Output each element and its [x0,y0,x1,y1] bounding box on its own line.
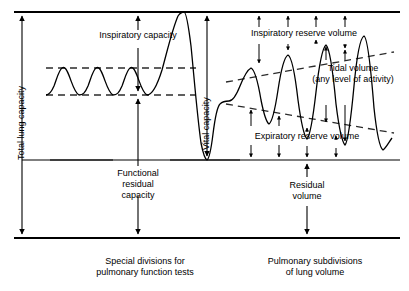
residual-volume-label-line2: volume [277,191,337,202]
trace-left-tidal [46,67,147,95]
dashed-tidal-levels [46,68,196,95]
inspiratory-reserve-volume-label: Inspiratory reserve volume [229,28,379,39]
tidal-volume-label-line2: (any level of activity) [298,74,408,85]
tidal-volume-label-line1: Tidal volume [303,63,403,74]
inspiratory-reserve-volume-arrows [259,16,345,63]
caption-right-line2: of lung volume [245,267,385,278]
total-lung-capacity-label: Total lung capacity [16,86,27,160]
residual-volume-label-line1: Residual [277,180,337,191]
lung-volumes-diagram: Total lung capacity Inspiratory capacity… [0,0,409,291]
caption-right-line1: Pulmonary subdivisions [245,256,385,267]
caption-left-line1: Special divisions for [80,256,210,267]
functional-residual-capacity-label-line3: capacity [108,190,168,201]
functional-residual-capacity-label-line2: residual [108,179,168,190]
caption-left-line2: pulmonary function tests [80,267,210,278]
vital-capacity-label: Vital capacity [201,97,212,150]
inspiratory-capacity-label: Inspiratory capacity [77,30,199,41]
expiratory-reserve-volume-label: Expiratory reserve volume [233,131,381,142]
functional-residual-capacity-label-line1: Functional [108,168,168,179]
